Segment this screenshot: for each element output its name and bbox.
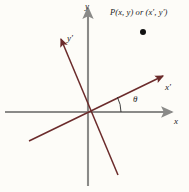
x-prime-axis-line	[29, 76, 163, 141]
coordinate-rotation-figure: y x y′ x′ θ P(x, y) or (x′, y′)	[0, 0, 189, 192]
angle-theta-label: θ	[133, 95, 137, 104]
primary-axes	[5, 8, 172, 186]
angle-arc	[117, 97, 121, 112]
y-axis-label: y	[85, 2, 89, 11]
x-axis-label: x	[174, 117, 178, 126]
y-prime-axis-line	[61, 39, 118, 175]
x-prime-axis-label: x′	[165, 83, 171, 92]
point-label: P(x, y) or (x′, y′)	[110, 8, 168, 17]
figure-canvas	[0, 0, 189, 192]
point-marker	[140, 29, 146, 35]
y-prime-axis-label: y′	[67, 34, 73, 43]
rotated-axes	[29, 39, 163, 175]
